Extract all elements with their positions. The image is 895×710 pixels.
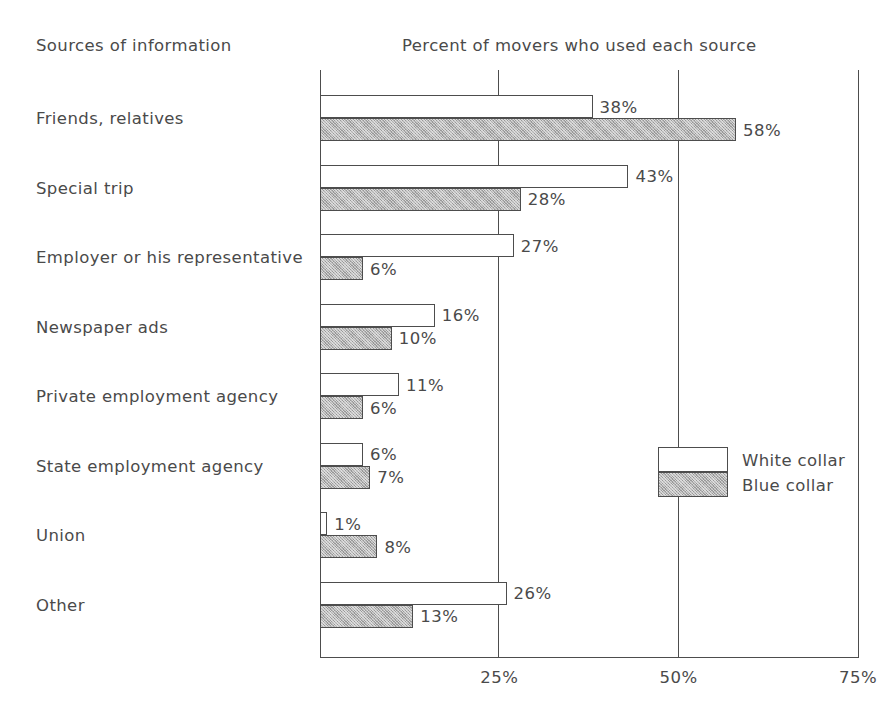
bar-white-collar-6: [320, 512, 327, 535]
x-tick-label-50: 50%: [660, 668, 698, 687]
bar-value-white-collar-2: 27%: [521, 236, 559, 255]
category-label-2: Employer or his representative: [36, 248, 303, 267]
bar-value-blue-collar-2: 6%: [370, 259, 397, 278]
category-label-7: Other: [36, 595, 85, 614]
bar-value-blue-collar-4: 6%: [370, 398, 397, 417]
chart-title: Percent of movers who used each source: [402, 36, 756, 55]
category-label-5: State employment agency: [36, 456, 264, 475]
legend-swatch-white-collar: [658, 447, 728, 472]
category-label-0: Friends, relatives: [36, 109, 184, 128]
gridline-75-percent: [858, 70, 859, 658]
bar-blue-collar-3: [320, 327, 392, 350]
category-label-4: Private employment agency: [36, 387, 278, 406]
bar-value-blue-collar-1: 28%: [528, 190, 566, 209]
bar-blue-collar-7: [320, 605, 413, 628]
bar-blue-collar-4: [320, 396, 363, 419]
gridline-50-percent: [678, 70, 679, 658]
x-tick-label-75: 75%: [839, 668, 877, 687]
bar-blue-collar-2: [320, 257, 363, 280]
sources-column-title: Sources of information: [36, 36, 232, 55]
bar-value-white-collar-4: 11%: [406, 375, 444, 394]
legend-swatch-blue-collar: [658, 472, 728, 497]
bar-value-white-collar-7: 26%: [514, 584, 552, 603]
bar-white-collar-7: [320, 582, 507, 605]
bar-value-white-collar-6: 1%: [334, 514, 361, 533]
category-label-1: Special trip: [36, 178, 134, 197]
bar-white-collar-5: [320, 443, 363, 466]
gridline-0-percent: [320, 70, 321, 658]
bar-blue-collar-0: [320, 118, 736, 141]
bar-white-collar-4: [320, 373, 399, 396]
bar-blue-collar-1: [320, 188, 521, 211]
bar-white-collar-0: [320, 95, 593, 118]
bar-chart: Sources of information Percent of movers…: [0, 0, 895, 710]
category-label-6: Union: [36, 526, 86, 545]
bar-value-blue-collar-5: 7%: [377, 468, 404, 487]
bar-value-blue-collar-3: 10%: [399, 329, 437, 348]
bar-value-blue-collar-0: 58%: [743, 120, 781, 139]
category-label-3: Newspaper ads: [36, 317, 168, 336]
legend-label-white-collar: White collar: [742, 451, 845, 470]
bar-value-white-collar-1: 43%: [635, 167, 673, 186]
bar-white-collar-3: [320, 304, 435, 327]
bar-value-white-collar-0: 38%: [600, 97, 638, 116]
x-tick-label-25: 25%: [480, 668, 518, 687]
bar-value-blue-collar-6: 8%: [384, 537, 411, 556]
legend-label-blue-collar: Blue collar: [742, 476, 833, 495]
bar-white-collar-2: [320, 234, 514, 257]
bar-blue-collar-6: [320, 535, 377, 558]
gridline-25-percent: [498, 70, 499, 658]
bar-value-white-collar-3: 16%: [442, 306, 480, 325]
bar-white-collar-1: [320, 165, 628, 188]
bar-blue-collar-5: [320, 466, 370, 489]
bar-value-blue-collar-7: 13%: [420, 607, 458, 626]
x-axis-baseline: [320, 657, 859, 658]
bar-value-white-collar-5: 6%: [370, 445, 397, 464]
